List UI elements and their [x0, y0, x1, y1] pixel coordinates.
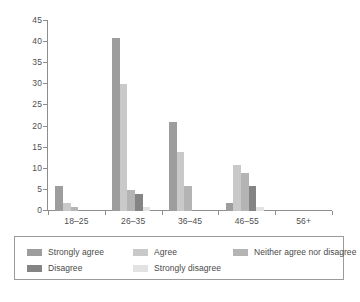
- x-tick-mark: [332, 211, 333, 215]
- bar: [120, 84, 128, 211]
- y-tick-mark: [43, 62, 47, 63]
- legend-label: Strongly disagree: [154, 264, 221, 273]
- x-axis-label-3: 36–45: [178, 216, 202, 226]
- legend-swatch-icon: [27, 249, 42, 256]
- x-tick-mark: [275, 211, 276, 215]
- y-tick-mark: [43, 83, 47, 84]
- y-axis-tick-10: 10: [32, 164, 42, 173]
- x-tick-mark: [162, 211, 163, 215]
- chart-legend: Strongly agreeAgreeNeither agree nor dis…: [14, 236, 344, 280]
- legend-item[interactable]: Neither agree nor disagree: [233, 246, 356, 259]
- x-tick-mark: [105, 211, 106, 215]
- bar: [169, 122, 177, 211]
- y-tick-mark: [43, 210, 47, 211]
- y-axis-tick-45: 45: [32, 16, 42, 25]
- bar: [112, 38, 120, 211]
- bar: [184, 186, 192, 211]
- legend-swatch-icon: [133, 265, 148, 272]
- bar-group: [112, 20, 150, 211]
- y-tick-mark: [43, 168, 47, 169]
- bar: [226, 203, 234, 211]
- y-tick-mark: [43, 126, 47, 127]
- bar: [249, 186, 257, 211]
- legend-items: Strongly agreeAgreeNeither agree nor dis…: [15, 237, 343, 279]
- legend-swatch-icon: [233, 249, 248, 256]
- y-tick-mark: [43, 20, 47, 21]
- legend-label: Disagree: [48, 264, 82, 273]
- x-tick-mark: [218, 211, 219, 215]
- y-axis-tick-35: 35: [32, 58, 42, 67]
- y-axis-tick-15: 15: [32, 142, 42, 151]
- x-tick-mark: [48, 211, 49, 215]
- bar: [233, 165, 241, 211]
- y-axis-tick-5: 5: [37, 185, 42, 194]
- legend-label: Agree: [154, 248, 177, 257]
- bar: [256, 207, 264, 211]
- legend-item[interactable]: Strongly disagree: [133, 262, 221, 275]
- bar-group: [55, 20, 93, 211]
- bar: [143, 207, 151, 211]
- legend-label: Strongly agree: [48, 248, 104, 257]
- bar: [71, 207, 79, 211]
- y-axis-tick-0: 0: [37, 206, 42, 215]
- legend-swatch-icon: [133, 249, 148, 256]
- legend-swatch-icon: [27, 265, 42, 272]
- y-tick-mark: [43, 104, 47, 105]
- bar: [63, 203, 71, 211]
- y-axis-tick-40: 40: [32, 37, 42, 46]
- bar: [55, 186, 63, 211]
- bar-group: [169, 20, 207, 211]
- page-edge: [0, 297, 360, 298]
- x-axis-category-labels: 18–2526–3536–4546–5556+: [48, 216, 332, 230]
- y-tick-mark: [43, 147, 47, 148]
- bar-group: [226, 20, 264, 211]
- x-axis-label-1: 18–25: [64, 216, 88, 226]
- legend-item[interactable]: Agree: [133, 246, 177, 259]
- y-axis-tick-labels: 051015202530354045: [20, 14, 42, 210]
- legend-item[interactable]: Strongly agree: [27, 246, 104, 259]
- bars-layer: [48, 20, 332, 211]
- bar: [241, 173, 249, 211]
- legend-label: Neither agree nor disagree: [254, 248, 356, 257]
- bar: [127, 190, 135, 211]
- bar: [135, 194, 143, 211]
- y-tick-mark: [43, 189, 47, 190]
- y-axis-tick-20: 20: [32, 121, 42, 130]
- y-axis-tick-30: 30: [32, 79, 42, 88]
- bar-group: [283, 20, 321, 211]
- y-axis-tick-25: 25: [32, 100, 42, 109]
- plot-area: 051015202530354045 18–2526–3536–4546–555…: [0, 0, 360, 232]
- bar-chart: 051015202530354045 18–2526–3536–4546–555…: [0, 0, 360, 302]
- y-tick-mark: [43, 41, 47, 42]
- x-axis-label-2: 26–35: [121, 216, 145, 226]
- legend-item[interactable]: Disagree: [27, 262, 82, 275]
- x-axis-label-5: 56+: [296, 216, 311, 226]
- bar: [177, 152, 185, 211]
- x-axis-label-4: 46–55: [235, 216, 259, 226]
